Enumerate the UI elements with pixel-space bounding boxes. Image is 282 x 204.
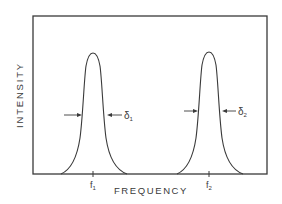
width-arrows-peak-2 <box>184 109 236 113</box>
tick-label-f2: f2 <box>206 180 213 191</box>
plot-frame <box>33 16 267 174</box>
width-label-2: δ2 <box>238 106 248 118</box>
spectrum-diagram: δ1 δ2 f1 f2 FREQUENCY INTENSITY <box>0 0 282 204</box>
peak-2-curve <box>177 52 243 174</box>
peak-1-curve <box>61 53 127 174</box>
y-axis-label: INTENSITY <box>14 62 25 128</box>
tick-label-f1: f1 <box>90 180 97 191</box>
width-arrows-peak-1 <box>64 113 122 117</box>
width-label-1: δ1 <box>124 110 134 122</box>
x-axis-label: FREQUENCY <box>114 185 188 196</box>
